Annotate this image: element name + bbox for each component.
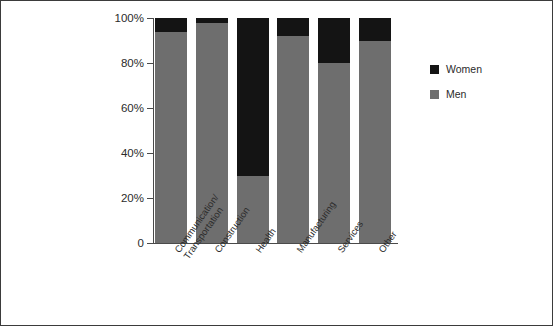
y-tick-label: 0 <box>138 237 144 249</box>
bar-segment-men <box>155 32 187 244</box>
legend-swatch-icon <box>430 65 439 74</box>
y-tick-label: 40% <box>121 147 144 159</box>
y-tick-mark <box>147 18 153 19</box>
legend-item[interactable]: Men <box>430 88 482 100</box>
y-tick-label: 60% <box>121 102 144 114</box>
y-tick-mark <box>147 63 153 64</box>
bar-segment-women <box>359 18 391 41</box>
chart-figure: 100%80%60%40%20%0 Communication/ Transpo… <box>0 0 553 326</box>
y-tick-label: 100% <box>115 12 144 24</box>
bar-segment-men <box>359 41 391 244</box>
bar-segment-women <box>237 18 269 176</box>
bar-segment-women <box>196 18 228 23</box>
legend-label: Women <box>446 63 482 75</box>
y-tick-mark <box>147 198 153 199</box>
bar-segment-women <box>277 18 309 36</box>
chart-legend: WomenMen <box>430 63 482 113</box>
bar-segment-men <box>277 36 309 243</box>
legend-label: Men <box>446 88 466 100</box>
bar-column <box>155 18 187 243</box>
bar-segment-women <box>318 18 350 63</box>
legend-swatch-icon <box>430 90 439 99</box>
y-tick-mark <box>147 108 153 109</box>
bar-column <box>359 18 391 243</box>
y-tick-label: 20% <box>121 192 144 204</box>
y-tick-label: 80% <box>121 57 144 69</box>
y-tick-mark <box>147 153 153 154</box>
plot-area: 100%80%60%40%20%0 <box>153 18 389 243</box>
legend-item[interactable]: Women <box>430 63 482 75</box>
y-tick-mark <box>147 243 153 244</box>
bar-segment-women <box>155 18 187 32</box>
bar-column <box>277 18 309 243</box>
